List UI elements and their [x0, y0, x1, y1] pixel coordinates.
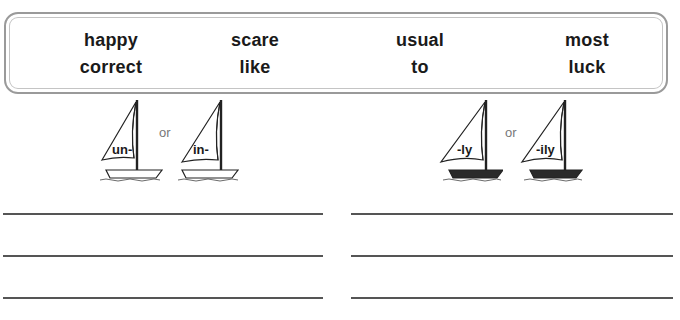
- boat-label: -ly: [457, 142, 472, 157]
- sailboat-icon: [516, 98, 584, 182]
- word-happy: happy: [41, 30, 181, 51]
- boat-label: -ily: [536, 142, 555, 157]
- answer-line-right-2[interactable]: [351, 255, 673, 257]
- answer-line-right-1[interactable]: [351, 213, 673, 215]
- word-luck: luck: [517, 57, 657, 78]
- answer-line-left-3[interactable]: [3, 297, 323, 299]
- sailboat-prefix-un: un-: [98, 98, 166, 182]
- word-most: most: [517, 30, 657, 51]
- answer-line-left-1[interactable]: [3, 213, 323, 215]
- sailboat-icon: [98, 98, 166, 182]
- word-usual: usual: [350, 30, 490, 51]
- sailboat-suffix-ily: -ily: [516, 98, 584, 182]
- sailboat-prefix-in: in-: [176, 98, 244, 182]
- word-bank-box: [4, 12, 668, 94]
- sailboat-icon: [435, 98, 503, 182]
- sailboat-suffix-ly: -ly: [435, 98, 503, 182]
- or-separator: or: [505, 125, 517, 140]
- word-to: to: [350, 57, 490, 78]
- or-separator: or: [159, 125, 171, 140]
- word-correct: correct: [41, 57, 181, 78]
- answer-line-right-3[interactable]: [351, 297, 673, 299]
- word-scare: scare: [185, 30, 325, 51]
- boat-label: in-: [193, 142, 209, 157]
- boat-label: un-: [112, 142, 132, 157]
- answer-line-left-2[interactable]: [3, 255, 323, 257]
- sailboat-icon: [176, 98, 244, 182]
- word-like: like: [185, 57, 325, 78]
